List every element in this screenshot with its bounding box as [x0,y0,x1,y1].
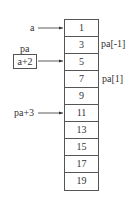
array-cell: 11 [65,105,98,122]
label-pa-1: pa[1] [102,73,123,85]
label-pa-minus-1: pa[-1] [101,38,125,50]
label-pa-plus-3: pa+3 [14,107,34,119]
array-cell: 17 [65,156,98,173]
array-cell: 1 [65,20,98,37]
array-cell: 19 [65,173,98,190]
label-a: a [30,22,34,34]
array-cell: 7 [65,71,98,88]
array-cell: 3 [65,37,98,54]
array-cell: 9 [65,88,98,105]
array-cell: 13 [65,122,98,139]
array-cell: 5 [65,54,98,71]
array-a: 1 3 5 7 9 11 13 15 17 19 [64,19,99,191]
pointer-pa-box: a+2 [13,54,37,69]
array-cell: 15 [65,139,98,156]
